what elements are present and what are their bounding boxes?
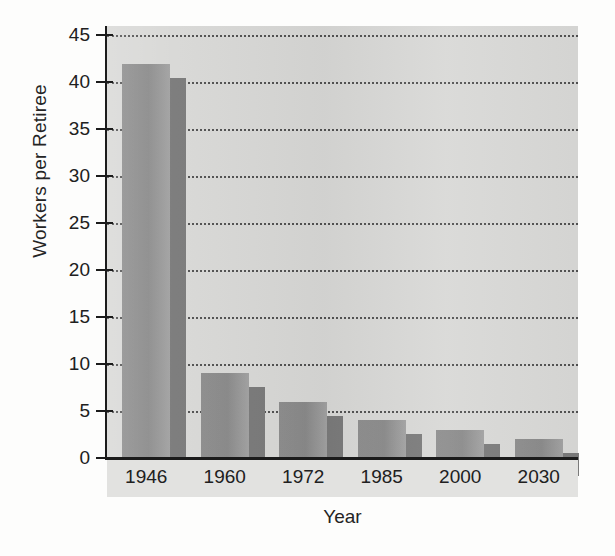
plot-area bbox=[107, 26, 578, 458]
y-axis-tick-mark bbox=[96, 316, 113, 318]
bar-fill bbox=[201, 373, 249, 458]
x-axis-tick-labels: 194619601972198520002030 bbox=[107, 466, 578, 500]
y-axis-tick-label: 15 bbox=[69, 306, 90, 328]
x-axis-tick-label: 2000 bbox=[439, 466, 481, 488]
x-axis-tick-label: 1946 bbox=[125, 466, 167, 488]
bar-1972 bbox=[279, 402, 327, 458]
y-axis-tick-mark bbox=[96, 128, 113, 130]
x-axis-tick-label: 1985 bbox=[361, 466, 403, 488]
bar-chart-figure: Workers per Retiree 051015202530354045 1… bbox=[0, 0, 615, 556]
bar-2000 bbox=[436, 430, 484, 458]
bar-1960 bbox=[201, 373, 249, 458]
y-axis-tick-mark bbox=[96, 457, 113, 459]
x-axis-tick-label: 1960 bbox=[204, 466, 246, 488]
y-axis-tick-mark bbox=[96, 81, 113, 83]
bar-2030 bbox=[515, 439, 563, 458]
y-axis-tick-label: 45 bbox=[69, 24, 90, 46]
y-axis-tick-mark bbox=[96, 269, 113, 271]
y-axis-tick-mark bbox=[96, 175, 113, 177]
y-axis-tick-label: 30 bbox=[69, 165, 90, 187]
bar-1946 bbox=[122, 64, 170, 458]
bar-fill bbox=[122, 64, 170, 458]
bar-fill bbox=[515, 439, 563, 458]
y-axis-tick-mark bbox=[96, 410, 113, 412]
y-axis-tick-label: 35 bbox=[69, 118, 90, 140]
y-axis-line bbox=[105, 26, 107, 460]
y-axis-tick-mark bbox=[96, 34, 113, 36]
y-axis-tick-mark bbox=[96, 222, 113, 224]
x-axis-line bbox=[107, 457, 578, 460]
bar-fill bbox=[279, 402, 327, 458]
y-axis-tick-label: 5 bbox=[79, 400, 90, 422]
y-axis-tick-mark bbox=[96, 363, 113, 365]
x-axis-title: Year bbox=[107, 506, 578, 528]
y-axis-tick-label: 0 bbox=[79, 447, 90, 469]
y-axis-tick-labels: 051015202530354045 bbox=[42, 0, 94, 556]
gridline bbox=[107, 35, 578, 37]
y-axis-tick-label: 20 bbox=[69, 259, 90, 281]
x-axis-tick-label: 2030 bbox=[518, 466, 560, 488]
y-axis-tick-label: 25 bbox=[69, 212, 90, 234]
bar-fill bbox=[436, 430, 484, 458]
y-axis-tick-label: 10 bbox=[69, 353, 90, 375]
y-axis-tick-label: 40 bbox=[69, 71, 90, 93]
bar-1985 bbox=[358, 420, 406, 458]
x-axis-tick-label: 1972 bbox=[282, 466, 324, 488]
bar-fill bbox=[358, 420, 406, 458]
